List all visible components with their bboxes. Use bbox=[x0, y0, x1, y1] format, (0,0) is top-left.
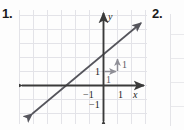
grid-edge-tick bbox=[171, 106, 184, 107]
figure-container: 1. 2. bbox=[0, 0, 184, 130]
grid-edge-tick bbox=[171, 82, 184, 83]
coordinate-plane-svg: y x −1 1 1 −1 1 1 bbox=[19, 10, 147, 124]
exercise-number-2: 2. bbox=[152, 6, 162, 21]
x-tick-label-1: 1 bbox=[118, 89, 123, 100]
slope-run-label: 1 bbox=[106, 74, 111, 85]
slope-rise-label: 1 bbox=[122, 59, 127, 70]
grid-edge-tick bbox=[171, 34, 184, 35]
coordinate-plane: y x −1 1 1 −1 1 1 bbox=[19, 10, 147, 124]
second-figure-grid-edge bbox=[170, 14, 184, 126]
plot-background bbox=[19, 10, 147, 124]
x-axis-label: x bbox=[132, 89, 138, 100]
exercise-number-1: 1. bbox=[2, 6, 12, 21]
y-tick-label-1: 1 bbox=[95, 66, 100, 77]
grid-edge-tick bbox=[171, 58, 184, 59]
y-tick-label-neg1: −1 bbox=[89, 99, 100, 110]
y-axis-label: y bbox=[107, 11, 113, 22]
